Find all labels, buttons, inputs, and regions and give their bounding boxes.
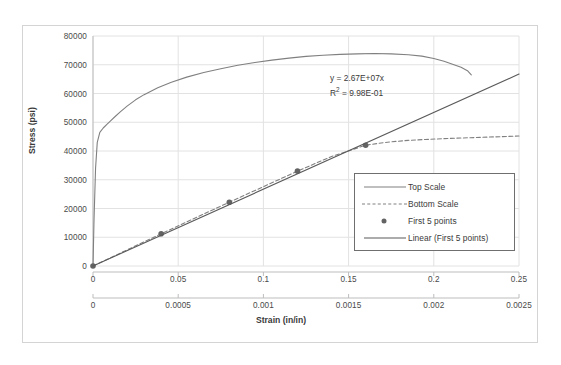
legend-item-label: Linear (First 5 points): [408, 233, 488, 243]
x-axis-bottom-tick-label: 0.0025: [506, 301, 532, 310]
x-axis-bottom-tick-label: 0.002: [423, 301, 444, 310]
chart-frame: 0100002000030000400005000060000700008000…: [22, 25, 538, 343]
x-axis-top-tick-label: 0.15: [340, 275, 356, 284]
chart-legend: Top ScaleBottom ScaleFirst 5 pointsLinea…: [354, 173, 515, 251]
r-squared-value: = 9.98E-01: [340, 88, 384, 98]
x-axis-bottom-tick-label: 0.0015: [336, 301, 362, 310]
x-axis-top-tick-label: 0.05: [170, 275, 186, 284]
legend-item-1[interactable]: Bottom Scale: [355, 195, 514, 212]
x-axis-bottom-tick-label: 0.0005: [165, 301, 191, 310]
x-axis-top-tick-label: 0.2: [428, 275, 440, 284]
equation-line-1: y = 2.67E+07x: [330, 72, 384, 84]
legend-dashed-line-icon: [360, 197, 408, 211]
y-axis-tick-label: 60000: [33, 89, 87, 98]
y-axis-tick-label: 50000: [33, 118, 87, 127]
legend-marker-dot-icon: [360, 214, 408, 228]
y-axis-tick-label: 40000: [33, 147, 87, 156]
legend-item-label: First 5 points: [408, 216, 457, 226]
y-axis-tick-label: 10000: [33, 233, 87, 242]
legend-item-0[interactable]: Top Scale: [355, 178, 514, 195]
legend-solid-line-icon: [360, 180, 408, 194]
x-axis-top-tick-label: 0.25: [511, 275, 527, 284]
legend-item-label: Top Scale: [408, 182, 445, 192]
y-axis-tick-label: 70000: [33, 60, 87, 69]
x-axis-bottom-tick-label: 0: [91, 301, 96, 310]
legend-item-2[interactable]: First 5 points: [355, 212, 514, 229]
x-axis-top-tick-label: 0.1: [258, 275, 270, 284]
legend-item-3[interactable]: Linear (First 5 points): [355, 229, 514, 246]
y-axis-title: Stress (psi): [27, 107, 37, 154]
x-axis-bottom-tick-label: 0.001: [253, 301, 274, 310]
y-axis-tick-label: 0: [33, 262, 87, 271]
x-axis-top-tick-label: 0: [91, 275, 96, 284]
legend-solid-line-dark-icon: [360, 231, 408, 245]
y-axis-tick-label: 20000: [33, 204, 87, 213]
legend-item-label: Bottom Scale: [408, 199, 458, 209]
y-axis-tick-label: 30000: [33, 175, 87, 184]
equation-line-2: R2 = 9.98E-01: [330, 84, 384, 99]
x-axis-title: Strain (in/in): [23, 315, 539, 325]
y-axis-tick-label: 80000: [33, 32, 87, 41]
trendline-equation-annotation: y = 2.67E+07x R2 = 9.98E-01: [330, 72, 384, 99]
